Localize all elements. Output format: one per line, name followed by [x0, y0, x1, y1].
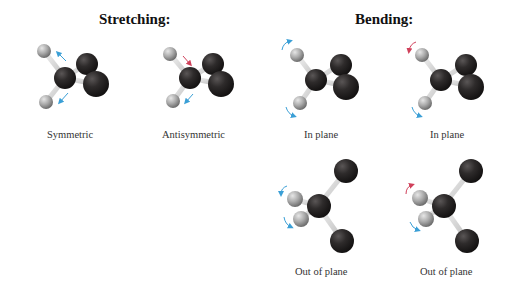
hydrogen-atom	[415, 48, 429, 62]
label-in-plane-2: In plane	[430, 129, 464, 140]
molecule-symmetric	[37, 44, 109, 109]
arrow-down-icon	[183, 56, 190, 64]
molecule-out-of-plane-1	[281, 159, 358, 253]
curved-arrow-icon	[284, 217, 291, 227]
label-in-plane-1: In plane	[304, 129, 338, 140]
curved-arrow-icon	[406, 185, 412, 194]
arrow-up-icon	[58, 53, 66, 61]
label-out-of-plane-2: Out of plane	[420, 266, 473, 277]
arrow-down-icon	[60, 93, 68, 102]
arrow-down-icon	[186, 94, 193, 102]
molecule-antisymmetric	[163, 47, 234, 108]
hydrogen-atom	[163, 47, 177, 61]
molecule-in-plane-1	[282, 41, 359, 116]
hydrogen-atom	[287, 191, 303, 207]
carbon-atom	[305, 69, 327, 91]
hydrogen-atom	[418, 96, 432, 110]
label-symmetric: Symmetric	[47, 129, 93, 140]
hydrogen-atom	[418, 211, 434, 227]
hydrogen-atom	[39, 95, 53, 109]
hydrogen-atom	[37, 44, 51, 58]
molecule-out-of-plane-2	[406, 159, 483, 253]
oxygen-atom	[455, 54, 477, 76]
label-antisymmetric: Antisymmetric	[162, 129, 225, 140]
vibration-modes-diagram	[0, 0, 517, 296]
hydrogen-atom	[412, 190, 428, 206]
carbon-atom	[54, 67, 76, 89]
oxygen-atom	[330, 229, 354, 253]
carbon-atom	[307, 194, 331, 218]
oxygen-atom	[334, 159, 358, 183]
oxygen-atom	[83, 71, 109, 97]
oxygen-atom	[208, 71, 234, 97]
curved-arrow-icon	[412, 107, 420, 116]
oxygen-atom	[455, 229, 479, 253]
hydrogen-atom	[293, 211, 309, 227]
oxygen-atom	[458, 74, 484, 100]
molecule-in-plane-2	[409, 42, 484, 116]
hydrogen-atom	[290, 48, 304, 62]
hydrogen-atom	[293, 96, 307, 110]
curved-arrow-icon	[282, 41, 290, 50]
oxygen-atom	[459, 159, 483, 183]
oxygen-atom	[330, 54, 352, 76]
carbon-atom	[179, 67, 201, 89]
curved-arrow-icon	[286, 107, 294, 116]
carbon-atom	[432, 194, 456, 218]
curved-arrow-icon	[281, 186, 287, 194]
carbon-atom	[430, 69, 452, 91]
hydrogen-atom	[166, 94, 180, 108]
oxygen-atom	[333, 74, 359, 100]
curved-arrow-icon	[410, 222, 418, 230]
curved-arrow-icon	[409, 42, 416, 51]
label-out-of-plane-1: Out of plane	[295, 266, 348, 277]
